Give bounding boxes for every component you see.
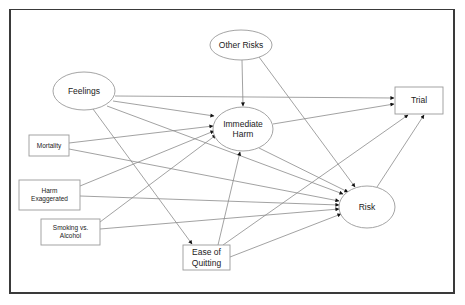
edge-other-risks-to-immediate-harm [242,60,243,106]
edge-ease-of-quitting-to-risk [230,214,341,257]
node-label: Feelings [68,86,100,96]
edge-smoking-vs-alcohol-to-risk [100,209,339,229]
node-label: Immediate [223,119,263,129]
node-other-risks: Other Risks [210,30,272,60]
path-diagram: Other RisksFeelingsImmediateHarmTrialMor… [0,0,465,305]
edge-harm-exaggerated-to-risk [80,196,339,205]
edge-immediate-harm-to-trial [273,104,394,124]
edge-feelings-to-trial [115,96,394,98]
node-risk: Risk [339,186,395,228]
edge-smoking-vs-alcohol-to-immediate-harm [100,135,216,222]
node-label: Harm [233,129,254,139]
edge-immediate-harm-to-risk [259,148,348,192]
node-label: Alcohol [60,232,82,239]
edge-ease-of-quitting-to-immediate-harm [218,152,240,245]
node-mortality: Mortality [29,135,69,156]
node-trial: Trial [395,87,443,114]
node-label: Other Risks [219,40,263,50]
node-label: Trial [411,95,427,105]
nodes-layer: Other RisksFeelingsImmediateHarmTrialMor… [19,30,443,270]
node-label: Ease of [192,247,221,257]
node-feelings: Feelings [53,72,115,110]
node-harm-exaggerated: HarmExaggerated [19,180,80,210]
node-smoking-vs-alcohol: Smoking vs.Alcohol [41,219,100,245]
edge-risk-to-trial [377,115,424,187]
node-label: Quitting [192,258,222,268]
node-label: Mortality [37,142,62,150]
node-label: Exaggerated [31,195,68,203]
node-immediate-harm: ImmediateHarm [213,107,273,151]
node-ease-of-quitting: Ease ofQuitting [183,245,230,270]
edge-other-risks-to-risk [259,57,355,187]
node-label: Harm [42,187,58,194]
edge-mortality-to-risk [69,149,339,201]
node-label: Smoking vs. [53,224,89,232]
edge-feelings-to-ease-of-quitting [93,109,192,244]
node-label: Risk [359,202,376,212]
